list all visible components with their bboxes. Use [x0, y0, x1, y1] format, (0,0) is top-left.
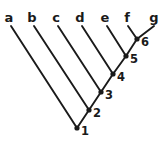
node-dot-2 — [86, 107, 91, 112]
branch-c — [58, 26, 101, 92]
node-label-4: 4 — [117, 70, 125, 84]
cladogram-diagram: abcdefg 123456 — [0, 0, 163, 142]
taxon-label-layer: abcdefg — [5, 10, 159, 25]
phylogenetic-tree-canvas: abcdefg 123456 — [0, 0, 163, 142]
node-dot-6 — [134, 36, 139, 41]
branch-d — [82, 26, 113, 74]
node-dot-3 — [98, 89, 103, 94]
taxon-label-e: e — [101, 10, 110, 25]
branch-b — [34, 26, 89, 110]
node-dot-5 — [123, 53, 128, 58]
node-label-5: 5 — [130, 52, 138, 66]
node-label-layer: 123456 — [81, 35, 149, 138]
taxon-label-d: d — [75, 10, 84, 25]
node-dot-4 — [110, 71, 115, 76]
branch-e — [107, 26, 126, 56]
node-label-2: 2 — [93, 106, 101, 120]
node-label-6: 6 — [141, 35, 149, 49]
taxon-label-g: g — [149, 10, 158, 25]
taxon-label-f: f — [124, 10, 130, 25]
branch-layer — [11, 26, 154, 128]
taxon-label-b: b — [27, 10, 36, 25]
node-label-1: 1 — [81, 124, 89, 138]
node-label-3: 3 — [105, 88, 113, 102]
node-dot-1 — [74, 125, 79, 130]
taxon-label-a: a — [5, 10, 14, 25]
taxon-label-c: c — [52, 10, 60, 25]
